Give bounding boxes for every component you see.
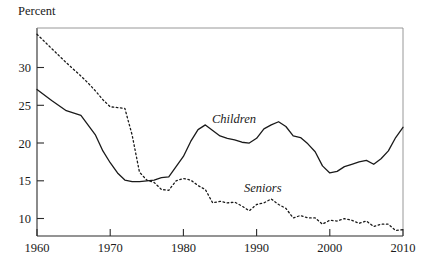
seniors-series-line [37, 34, 403, 230]
y-axis-title: Percent [18, 4, 56, 18]
x-tick-label-1960: 1960 [25, 241, 50, 255]
y-tick-label-10: 10 [19, 212, 32, 226]
poverty-rate-line-chart: Percent 30 25 20 15 10 [0, 0, 432, 274]
x-tick-label-1970: 1970 [98, 241, 123, 255]
seniors-label: Seniors [244, 181, 282, 195]
x-axis-tick-labels: 1960 1970 1980 1990 2000 2010 [25, 241, 416, 255]
children-label: Children [212, 112, 256, 126]
y-axis-tick-labels: 30 25 20 15 10 [19, 61, 32, 226]
y-tick-label-15: 15 [19, 174, 32, 188]
x-tick-label-1990: 1990 [244, 241, 269, 255]
y-tick-label-25: 25 [19, 99, 32, 113]
y-tick-label-30: 30 [19, 61, 32, 75]
chart-container: Percent 30 25 20 15 10 [0, 0, 432, 274]
x-tick-label-2010: 2010 [391, 241, 416, 255]
x-axis-ticks [37, 229, 403, 236]
children-series-line [37, 89, 403, 181]
x-tick-label-2000: 2000 [317, 241, 342, 255]
y-tick-label-20: 20 [19, 137, 32, 151]
x-tick-label-1980: 1980 [171, 241, 196, 255]
